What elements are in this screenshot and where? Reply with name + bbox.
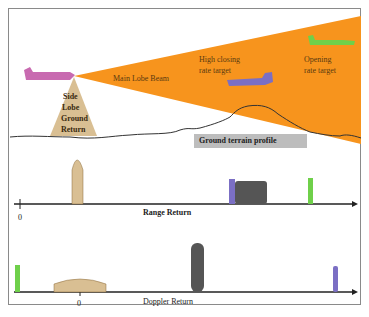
range-side-lobe-return [72, 160, 83, 204]
side-lobe-label-line2: Lobe [62, 103, 79, 112]
range-closing-target-return [229, 179, 235, 204]
range-terrain-clutter [235, 181, 267, 204]
high-closing-label-line2: rate target [199, 66, 231, 75]
main-lobe-label: Main Lobe Beam [113, 74, 169, 83]
doppler-axis-arrow-icon [352, 289, 358, 295]
terrain-label: Ground terrain profile [199, 136, 276, 145]
side-lobe-label-line1: Side [63, 92, 78, 101]
doppler-origin-label: 0 [77, 299, 81, 308]
doppler-opening-target-return [15, 265, 20, 292]
doppler-main-lobe-clutter [191, 243, 204, 292]
range-axis-arrow-icon [352, 201, 358, 207]
opening-label-line1: Opening [304, 55, 332, 64]
doppler-axis-label: Doppler Return [143, 297, 193, 306]
doppler-closing-target-return [333, 266, 338, 292]
doppler-side-lobe-return [54, 279, 106, 292]
side-lobe-label-line4: Return [61, 125, 85, 134]
high-closing-label-line1: High closing [199, 55, 240, 64]
radar-diagram [0, 0, 369, 317]
side-lobe-label-line3: Ground [61, 114, 88, 123]
range-axis-label: Range Return [143, 208, 191, 217]
range-opening-target-return [308, 178, 313, 204]
own-aircraft-icon [24, 67, 75, 80]
opening-label-line2: rate target [304, 66, 336, 75]
range-origin-label: 0 [18, 213, 22, 222]
